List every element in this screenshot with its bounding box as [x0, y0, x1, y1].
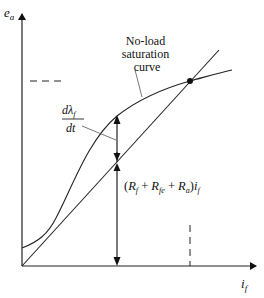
- dlambda-denominator: dt: [66, 121, 76, 135]
- resistance-expression: (Rf + Rfe + Ra)if: [124, 179, 201, 195]
- x-axis-label: if: [241, 276, 249, 293]
- y-axis-label: ea: [4, 5, 15, 22]
- saturation-diagram: ea if No-load saturation curve dλf dt (R…: [0, 0, 264, 298]
- dlambda-numerator: dλf: [62, 103, 77, 119]
- curve-label-leader: [135, 70, 142, 97]
- curve-label: No-load saturation curve: [122, 34, 172, 74]
- operating-point: [187, 78, 193, 84]
- dlambda-leader: [82, 126, 116, 140]
- no-load-saturation-curve: [22, 70, 232, 248]
